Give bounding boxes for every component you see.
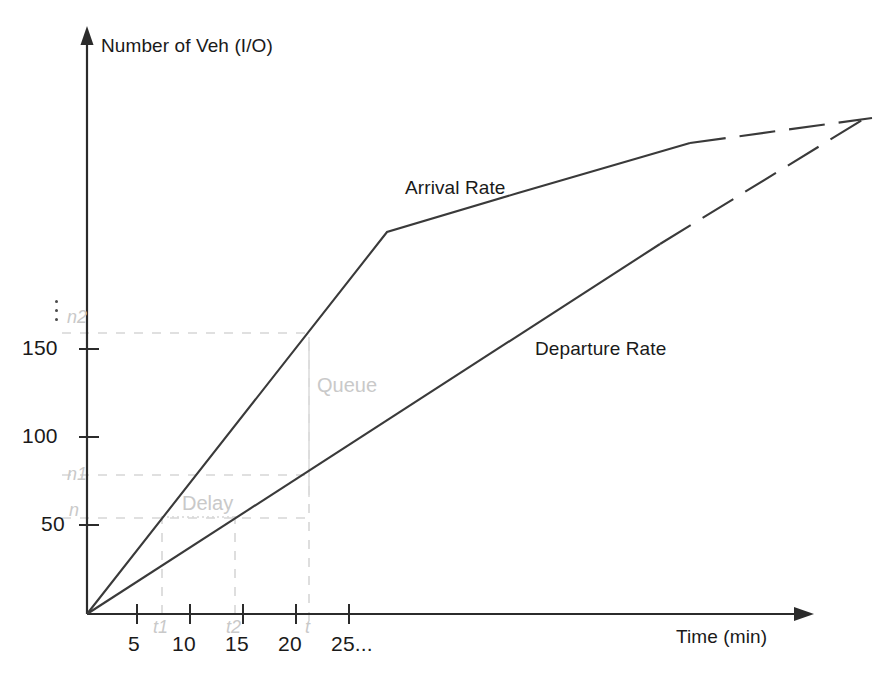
marker-label-n2: n2 xyxy=(67,307,87,328)
annotation-queue: Queue xyxy=(317,374,377,397)
x-tick-label-20: 20 xyxy=(278,632,302,656)
x-axis-arrow-icon xyxy=(794,607,814,621)
y-tick-label-150: 150 xyxy=(22,336,58,360)
chart-canvas xyxy=(0,0,895,682)
x-tick-label-10: 10 xyxy=(172,632,196,656)
y-axis-arrow-icon xyxy=(81,26,94,45)
departure-rate-line-solid xyxy=(87,244,660,614)
annotation-delay: Delay xyxy=(182,492,233,515)
marker-label-t1: t1 xyxy=(153,617,168,638)
queueing-diagram: Number of Veh (I/O) Time (min) 150 100 5… xyxy=(0,0,895,682)
y-axis-title: Number of Veh (I/O) xyxy=(101,35,273,57)
series-label-departure-rate: Departure Rate xyxy=(535,338,666,360)
marker-label-n1: n1 xyxy=(67,464,87,485)
x-tick-label-5: 5 xyxy=(128,632,140,656)
y-tick-label-50: 50 xyxy=(41,512,65,536)
x-axis-title: Time (min) xyxy=(676,626,767,648)
series-label-arrival-rate: Arrival Rate xyxy=(405,177,505,199)
y-tick-label-100: 100 xyxy=(22,424,58,448)
y-axis-continuation-dots-icon xyxy=(55,300,58,327)
x-tick-label-25: 25... xyxy=(331,632,373,656)
marker-label-t: t xyxy=(305,617,310,638)
arrival-rate-line-solid xyxy=(87,143,690,614)
marker-label-n: n xyxy=(69,500,79,521)
axes xyxy=(79,26,814,624)
marker-label-t2: t2 xyxy=(226,617,241,638)
